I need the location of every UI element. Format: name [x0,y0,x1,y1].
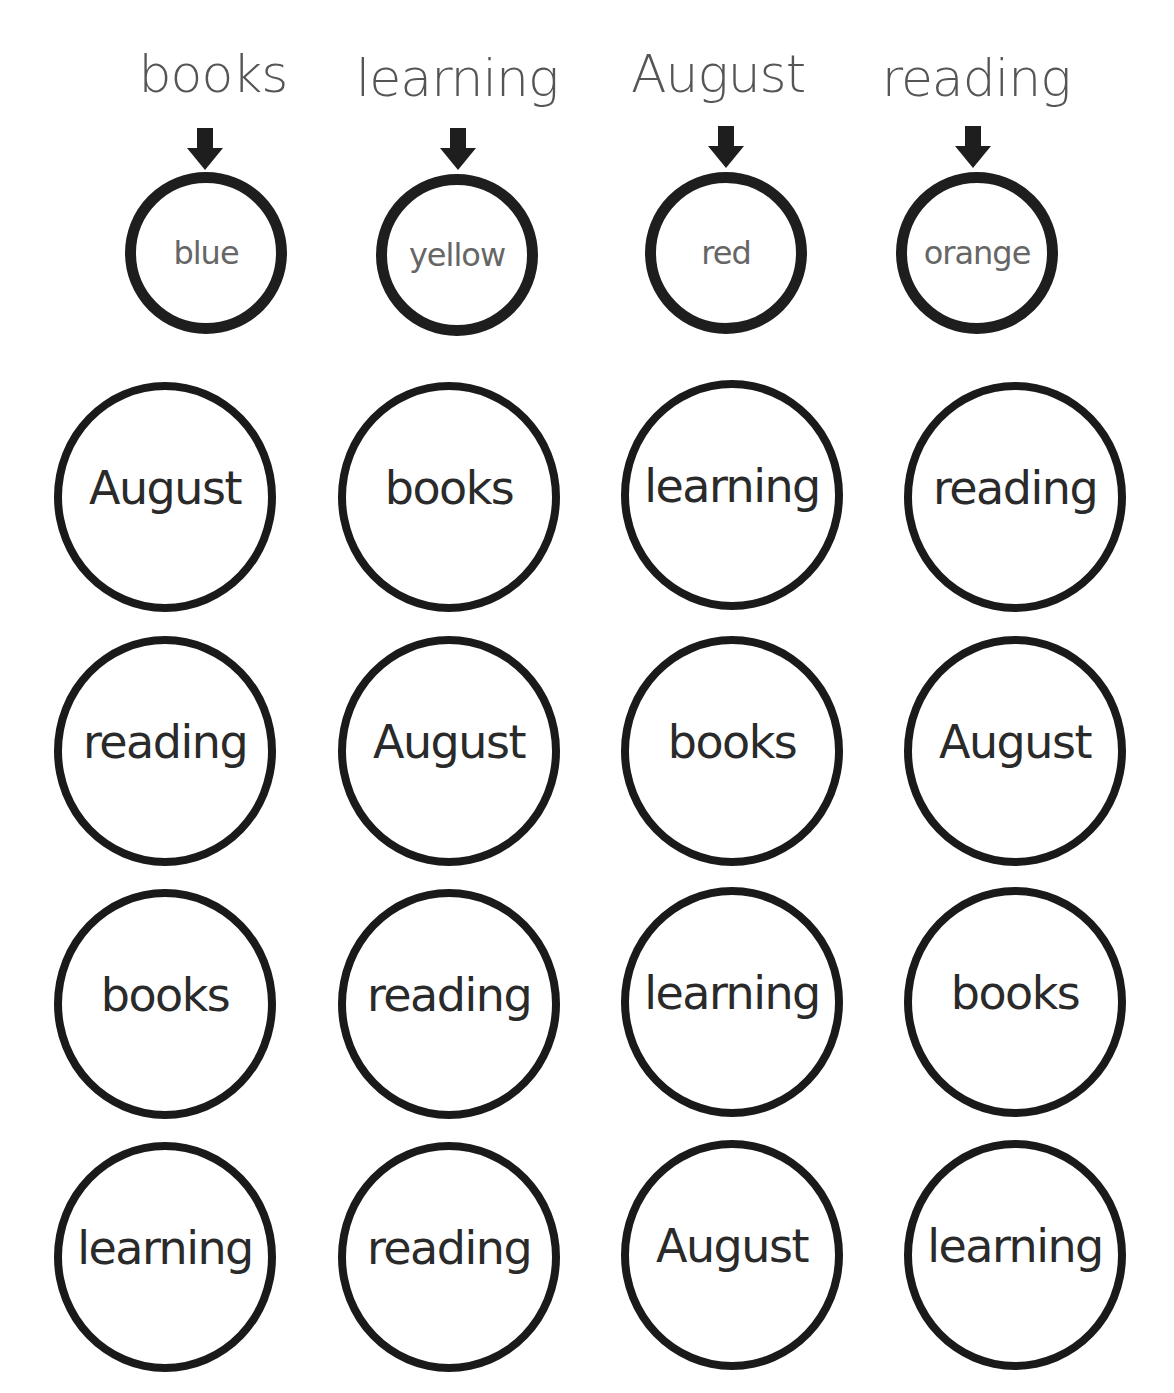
word-label: August [89,461,241,515]
arrow-down-icon [185,128,225,170]
word-circle[interactable]: learning [54,1142,276,1372]
word-circle[interactable]: books [54,889,276,1119]
word-label: reading [367,1221,531,1275]
word-circle[interactable]: August [54,382,276,612]
word-label: learning [644,966,820,1020]
word-label: books [951,966,1080,1020]
key-word-reading: reading [866,48,1086,108]
word-circle[interactable]: books [904,887,1126,1117]
word-label: books [385,461,514,515]
word-circle[interactable]: August [338,636,560,866]
word-label: August [939,715,1091,769]
word-label: reading [933,461,1097,515]
word-label: books [101,968,230,1022]
word-circle[interactable]: learning [621,380,843,610]
word-circle[interactable]: reading [904,382,1126,612]
word-label: August [373,715,525,769]
word-label: learning [644,459,820,513]
word-circle[interactable]: books [338,382,560,612]
arrow-down-icon [438,128,478,170]
key-word-learning: learning [347,48,567,108]
word-circle[interactable]: August [904,636,1126,866]
word-circle[interactable]: learning [904,1140,1126,1370]
key-word-books: books [103,44,323,104]
word-label: reading [83,715,247,769]
key-circle-blue[interactable]: blue [125,172,287,334]
key-circle-orange[interactable]: orange [896,172,1058,334]
word-label: reading [367,968,531,1022]
word-circle[interactable]: books [621,636,843,866]
word-label: learning [927,1219,1103,1273]
word-circle[interactable]: reading [338,1142,560,1372]
key-color-label: blue [173,234,238,272]
word-label: learning [77,1221,253,1275]
word-circle[interactable]: August [621,1140,843,1370]
key-word-august: August [608,44,828,104]
key-color-label: orange [924,234,1031,272]
arrow-down-icon [953,126,993,168]
word-circle[interactable]: learning [621,887,843,1117]
word-label: August [656,1219,808,1273]
word-label: books [668,715,797,769]
key-color-label: yellow [409,236,505,274]
key-circle-yellow[interactable]: yellow [376,174,538,336]
key-circle-red[interactable]: red [645,172,807,334]
key-color-label: red [701,234,750,272]
word-circle[interactable]: reading [338,889,560,1119]
arrow-down-icon [706,126,746,168]
word-circle[interactable]: reading [54,636,276,866]
